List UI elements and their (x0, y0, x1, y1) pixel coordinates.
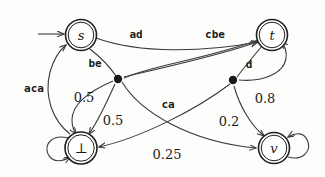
node-v-label: v (270, 141, 278, 156)
left-junction-dot (114, 75, 122, 83)
node-t[interactable]: t (257, 20, 288, 51)
edge-aca-bottom-to-s (48, 45, 70, 134)
prob-label-be-left: 0.5 (74, 90, 95, 105)
edge-label-aca: aca (24, 82, 44, 95)
prob-label-ca-v: 0.25 (153, 147, 182, 162)
prob-label-d-t: 0.8 (255, 91, 276, 106)
node-bottom[interactable]: ⊥ (65, 132, 97, 164)
prob-label-d-v: 0.2 (219, 114, 240, 129)
edge-label-cbe: cbe (205, 28, 225, 41)
node-t-label: t (269, 28, 275, 43)
self-loop-v (288, 134, 309, 158)
edge-label-ca: ca (161, 98, 174, 111)
edge-label-be: be (88, 57, 102, 70)
node-v[interactable]: v (259, 133, 290, 164)
automaton-diagram: s t ⊥ v ad cbe be d aca ca 0.5 0.5 (0, 0, 325, 177)
right-junction-dot (229, 76, 237, 84)
node-s-label: s (78, 28, 85, 43)
node-bottom-label: ⊥ (74, 140, 87, 156)
edge-label-ad: ad (129, 28, 142, 41)
node-s[interactable]: s (66, 20, 97, 51)
prob-label-be-right: 0.5 (103, 113, 124, 128)
edge-label-d: d (246, 58, 253, 71)
